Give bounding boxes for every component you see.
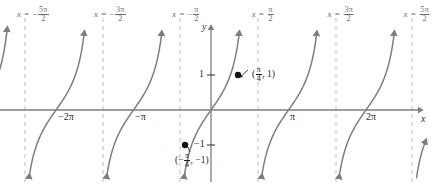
asymptote-label-fraction: 5π2 [419,6,429,23]
asymptote-label-fraction: 5π2 [38,6,48,23]
asymptote-label-sign: − [187,9,192,19]
tangent-branch-0 [30,31,85,174]
tangent-branch-4 [340,31,395,174]
coordinate-axes [0,26,422,182]
asymptote-label-sign: − [109,9,114,19]
asymptote-label-var: x = [17,9,30,19]
asymptote-label-var: x = [328,9,341,19]
asymptote-label-fraction: 3π2 [343,6,353,23]
point-label-neg-pi-over-4: (−π4, −1) [175,152,209,169]
plot-canvas [0,0,440,185]
marked-point-p-positive [235,72,241,78]
x-tick-label-2pi: 2π [366,111,376,122]
asymptote-label-fraction: π2 [193,6,199,23]
point-label-rest: , 1) [262,69,275,79]
tangent-function-graph: x = −5π2 x = −3π2 x = −π2 x = π2 x = 3π2… [0,0,440,185]
point-label-fraction: π4 [184,152,190,169]
tangent-branch-edge-1 [417,140,427,178]
point-label-pi-over-4: (π4, 1) [252,66,275,83]
asymptote-label-pos-5pi-2: x = 5π2 [404,6,431,23]
asymptote-label-pos-pi-2: x = π2 [252,6,275,23]
tangent-curve-branches [0,27,426,178]
x-tick-label-neg-2pi: −2π [58,111,74,122]
tangent-branch-3 [262,31,317,174]
y-axis-label: y [202,21,206,32]
asymptote-label-neg-pi-2: x = −π2 [172,6,200,23]
leader-line-p-positive [240,70,248,77]
point-label-fraction: π4 [256,66,262,83]
asymptote-label-fraction: 3π2 [115,6,125,23]
asymptote-label-var: x = [252,9,265,19]
x-tick-label-pi: π [290,111,295,122]
y-tick-label-neg-1: −1 [194,138,205,149]
asymptote-label-neg-5pi-2: x = −5π2 [17,6,49,23]
tangent-branch-edge-0 [0,27,7,80]
asymptote-label-sign: − [32,9,37,19]
point-label-sign: − [178,155,183,165]
point-label-rest: , −1) [191,155,209,165]
asymptote-label-var: x = [172,9,185,19]
asymptote-label-neg-3pi-2: x = −3π2 [94,6,126,23]
tangent-branch-1 [107,31,162,174]
x-axis-label: x [421,113,425,124]
marked-point-p-negative [182,142,188,148]
asymptote-label-pos-3pi-2: x = 3π2 [328,6,355,23]
asymptote-label-var: x = [404,9,417,19]
asymptote-label-fraction: π2 [268,6,274,23]
y-tick-label-1: 1 [199,68,204,79]
x-tick-label-neg-pi: −π [135,111,146,122]
asymptote-label-var: x = [94,9,107,19]
